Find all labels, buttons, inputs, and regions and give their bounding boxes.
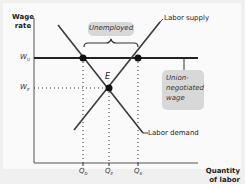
we-sub: E: [27, 87, 30, 92]
qs-sub: S: [140, 171, 143, 176]
tick-label-wu: WU: [20, 53, 30, 62]
unemployed-label: Unemployed: [88, 24, 134, 32]
point-qs: [135, 55, 142, 62]
x-axis-label: Quantity of labor: [190, 167, 240, 184]
labor-supply-label: Labor supply: [164, 14, 209, 22]
supply-leader: [160, 19, 163, 22]
ylabel-line1: Wage: [11, 13, 35, 22]
y-axis-label: Wage rate: [11, 13, 35, 31]
tick-label-qe: QE: [105, 167, 113, 176]
qd-sub: D: [85, 171, 88, 176]
wu-letter: W: [20, 53, 27, 61]
point-qd: [80, 55, 87, 62]
union-line2: negotiated: [166, 83, 204, 93]
labor-demand-label: Labor demand: [148, 129, 199, 137]
union-line1: Union-: [166, 73, 204, 83]
unemployed-brace: [84, 39, 138, 47]
xlabel-line2: of labor: [190, 176, 240, 184]
ylabel-line2: rate: [11, 22, 35, 31]
labor-demand-curve: [58, 25, 143, 133]
qe-sub: E: [111, 171, 114, 176]
wu-sub: U: [27, 57, 30, 62]
equilibrium-label: E: [105, 72, 110, 81]
point-e: [106, 85, 113, 92]
labor-supply-curve: [74, 22, 160, 130]
tick-label-qd: QD: [79, 167, 88, 176]
xlabel-line1: Quantity: [190, 167, 240, 176]
tick-label-we: WE: [20, 83, 29, 92]
union-line3: wage: [166, 93, 204, 103]
we-letter: W: [20, 83, 27, 91]
tick-label-qs: QS: [134, 167, 142, 176]
union-wage-label: Union- negotiated wage: [166, 73, 204, 103]
